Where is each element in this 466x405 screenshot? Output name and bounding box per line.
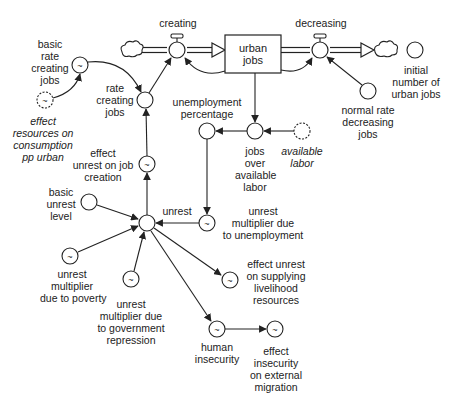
svg-text:~: ~ <box>214 325 219 335</box>
human-insecurity-node[interactable]: ~ <box>209 321 225 337</box>
effect-unrest-job-creation-label: effect unrest on job creation <box>68 147 138 183</box>
unemployment-percentage-node[interactable] <box>199 123 215 139</box>
svg-text:~: ~ <box>77 61 82 71</box>
unrest-multiplier-repression-label: unrest multiplier due to government repr… <box>97 298 165 346</box>
jobs-over-labor-label: jobs over available labor <box>235 145 275 193</box>
unrest-multiplier-unemployment-label: unrest multiplier due to unemployment <box>220 205 306 241</box>
svg-text:~: ~ <box>204 219 209 229</box>
basic-unrest-level-node[interactable] <box>81 194 97 210</box>
urban-jobs-label: urban jobs <box>225 35 281 73</box>
creating-valve-icon[interactable] <box>169 34 185 58</box>
unrest-multiplier-unemployment-node[interactable]: ~ <box>199 215 215 231</box>
initial-urban-jobs-node[interactable] <box>407 42 423 58</box>
link-urban-jobs-to-decreasing <box>281 58 312 71</box>
source-cloud-icon <box>121 41 143 57</box>
svg-text:~: ~ <box>144 160 149 170</box>
link-basic-unrest-to-unrest <box>97 205 138 219</box>
effect-insecurity-migration-node[interactable]: ~ <box>267 321 283 337</box>
decreasing-valve-icon[interactable] <box>312 34 328 58</box>
svg-text:~: ~ <box>67 252 72 262</box>
normal-rate-decreasing-label: normal rate decreasing jobs <box>338 104 398 140</box>
decreasing-flow-label: decreasing <box>293 17 349 29</box>
link-effect-job-creation-to-rate <box>146 109 147 156</box>
jobs-over-labor-node[interactable] <box>247 123 263 139</box>
normal-rate-decreasing-node[interactable] <box>360 83 376 99</box>
unrest-multiplier-repression-node[interactable]: ~ <box>123 271 139 287</box>
svg-text:~: ~ <box>42 96 47 106</box>
basic-unrest-level-label: basic unrest level <box>44 186 78 222</box>
unrest-multiplier-poverty-label: unrest multiplier due to poverty <box>40 268 104 304</box>
effect-insecurity-migration-label: effect insecurity on external migration <box>248 345 304 393</box>
available-labor-label: available labor <box>280 145 324 169</box>
rate-creating-jobs-label: rate creating jobs <box>95 82 135 118</box>
initial-urban-jobs-label: initial number of urban jobs <box>385 64 447 100</box>
link-poverty-to-unrest <box>78 226 138 252</box>
link-normal-rate-to-decreasing <box>327 57 362 85</box>
creating-flow-label: creating <box>158 17 198 29</box>
unrest-node[interactable] <box>139 215 155 231</box>
effect-unrest-job-creation-node[interactable]: ~ <box>139 156 155 172</box>
rate-creating-jobs-node[interactable] <box>137 92 153 108</box>
basic-rate-creating-jobs-label: basic rate creating jobs <box>30 38 70 86</box>
basic-rate-creating-jobs-node[interactable]: ~ <box>72 57 88 73</box>
svg-text:~: ~ <box>128 275 133 285</box>
effect-resources-ghost-node[interactable]: ~ <box>37 92 53 108</box>
effect-unrest-supplying-node[interactable]: ~ <box>222 272 238 288</box>
svg-text:~: ~ <box>272 325 277 335</box>
available-labor-ghost-node[interactable] <box>294 123 310 139</box>
link-rate-creating-to-creating <box>149 58 171 93</box>
link-repression-to-unrest <box>134 232 144 271</box>
unrest-multiplier-poverty-node[interactable]: ~ <box>62 248 78 264</box>
human-insecurity-label: human insecurity <box>192 341 242 365</box>
link-urban-jobs-to-creating <box>185 58 225 73</box>
unemployment-percentage-label: unemployment percentage <box>172 96 242 120</box>
unrest-label: unrest <box>157 205 197 217</box>
svg-text:~: ~ <box>227 276 232 286</box>
sink-cloud-icon <box>375 41 398 57</box>
effect-unrest-supplying-label: effect unrest on supplying livelihood re… <box>243 258 309 306</box>
